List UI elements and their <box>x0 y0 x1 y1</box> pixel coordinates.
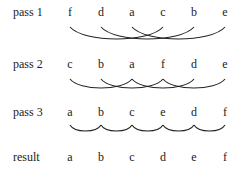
comparison-arc <box>163 125 194 131</box>
row-label: pass 3 <box>13 105 43 120</box>
letter: e <box>187 150 201 165</box>
letter: f <box>218 150 232 165</box>
comparison-arc <box>101 125 132 131</box>
comparison-arc <box>101 79 163 88</box>
comparison-arc <box>70 27 163 39</box>
comparison-arc <box>132 27 225 39</box>
letter: c <box>125 105 139 120</box>
letter: c <box>63 57 77 72</box>
letter: f <box>218 105 232 120</box>
letter: c <box>156 5 170 20</box>
letter: d <box>187 57 201 72</box>
letter: d <box>156 150 170 165</box>
row-pass-3: pass 3 a b c e d f <box>0 105 239 125</box>
letter: c <box>125 150 139 165</box>
letter: b <box>94 150 108 165</box>
letter: b <box>94 105 108 120</box>
comparison-arc <box>163 79 225 88</box>
letter: f <box>156 57 170 72</box>
row-label: pass 2 <box>13 57 43 72</box>
letter: a <box>63 105 77 120</box>
letter: d <box>94 5 108 20</box>
comparison-arc <box>70 79 132 88</box>
comparison-arc <box>132 125 163 131</box>
row-label: pass 1 <box>13 5 43 20</box>
letter: a <box>63 150 77 165</box>
row-result: result a b c d e f <box>0 150 239 170</box>
letter: a <box>125 5 139 20</box>
comparison-arc <box>132 79 194 88</box>
row-pass-1: pass 1 f d a c b e <box>0 5 239 25</box>
letter: e <box>218 5 232 20</box>
letter: e <box>218 57 232 72</box>
letter: f <box>63 5 77 20</box>
letter: b <box>187 5 201 20</box>
comparison-arc <box>101 27 194 39</box>
letter: a <box>125 57 139 72</box>
row-label: result <box>13 150 40 165</box>
row-pass-2: pass 2 c b a f d e <box>0 57 239 77</box>
letter: d <box>187 105 201 120</box>
letter: e <box>156 105 170 120</box>
comparison-arc <box>194 125 225 131</box>
letter: b <box>94 57 108 72</box>
comparison-arc <box>70 125 101 131</box>
